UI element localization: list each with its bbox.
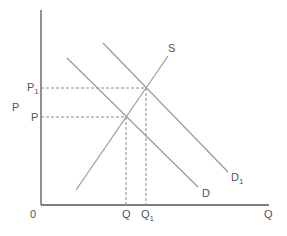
origin-label: 0: [30, 208, 36, 220]
supply-label: S: [168, 42, 175, 54]
supply-demand-diagram: S D D1 P1 P P 0 Q Q1 Q: [0, 0, 287, 236]
demand-label: D: [202, 187, 210, 199]
demand-curve: [67, 58, 198, 187]
demand-curve-shifted: [103, 43, 228, 172]
q1-label: Q1: [141, 208, 155, 223]
p-label: P: [31, 111, 38, 123]
q-label: Q: [122, 208, 131, 220]
supply-curve: [76, 56, 168, 190]
demand-shifted-label: D1: [231, 171, 244, 186]
y-axis-label: P: [12, 101, 19, 113]
p1-label: P1: [27, 81, 39, 96]
x-axis-label: Q: [264, 208, 273, 220]
